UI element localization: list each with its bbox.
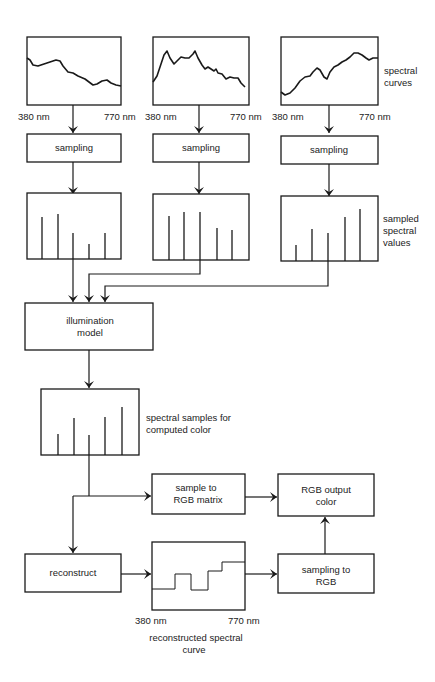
spectral-curve-panel-1: 380 nm 770 nm [18,37,136,122]
axis-max-label: 770 nm [359,111,391,122]
computed-color-label: spectral samples for computed color [146,412,231,435]
axis-min-label: 380 nm [145,111,177,122]
arrow [105,261,328,302]
svg-text:sampling: sampling [310,144,348,155]
sampled-values-panel-1 [27,193,121,259]
spectral-curve-panel-3: 380 nm 770 nm [272,37,391,122]
axis-max-label: 770 nm [228,615,260,626]
sampling-box-2: sampling [153,134,249,162]
axis-min-label: 380 nm [135,615,167,626]
svg-text:sampling: sampling [55,142,93,153]
svg-text:RGB: RGB [316,576,337,587]
axis-min-label: 380 nm [272,111,304,122]
svg-text:values: values [383,237,411,248]
svg-text:sampled: sampled [383,213,419,224]
svg-text:sample to: sample to [175,482,216,493]
svg-text:reconstruct: reconstruct [50,567,97,578]
reconstruct-box: reconstruct [25,554,121,592]
spectral-curve-panel-2: 380 nm 770 nm [145,37,262,122]
arrow [89,260,200,302]
sampling-box-3: sampling [281,136,378,164]
computed-color-samples-panel [41,389,139,455]
svg-text:spectral: spectral [383,225,416,236]
illumination-model-box: illumination model [25,303,153,350]
svg-text:RGB matrix: RGB matrix [173,494,222,505]
svg-text:sampling: sampling [182,142,220,153]
svg-text:curve: curve [182,644,205,655]
axis-max-label: 770 nm [230,111,262,122]
svg-text:spectral: spectral [384,65,417,76]
axis-max-label: 770 nm [104,111,136,122]
reconstructed-curve-label: reconstructed spectral curve [149,632,242,655]
axis-min-label: 380 nm [18,111,50,122]
sampled-values-label: sampled spectral values [383,213,419,248]
svg-text:computed color: computed color [146,424,211,435]
svg-text:RGB output: RGB output [301,484,351,495]
svg-text:reconstructed spectral: reconstructed spectral [149,632,242,643]
svg-text:illumination: illumination [66,315,114,326]
reconstructed-curve-panel: 380 nm 770 nm [135,542,260,626]
svg-text:curves: curves [384,77,412,88]
sampled-values-panel-2 [153,194,249,260]
svg-text:color: color [316,496,337,507]
sample-to-rgb-matrix-box: sample to RGB matrix [152,474,245,514]
sampling-to-rgb-box: sampling to RGB [278,554,374,593]
sampling-box-1: sampling [27,134,121,162]
sampled-values-panel-3 [281,196,378,261]
svg-text:spectral samples for: spectral samples for [146,412,231,423]
spectral-curves-label: spectral curves [384,65,417,88]
svg-text:model: model [77,327,103,338]
rgb-output-color-box: RGB output color [278,474,374,516]
spectral-rendering-diagram: 380 nm 770 nm 380 nm 770 nm 380 nm 770 n… [0,0,435,682]
svg-text:sampling to: sampling to [302,564,351,575]
